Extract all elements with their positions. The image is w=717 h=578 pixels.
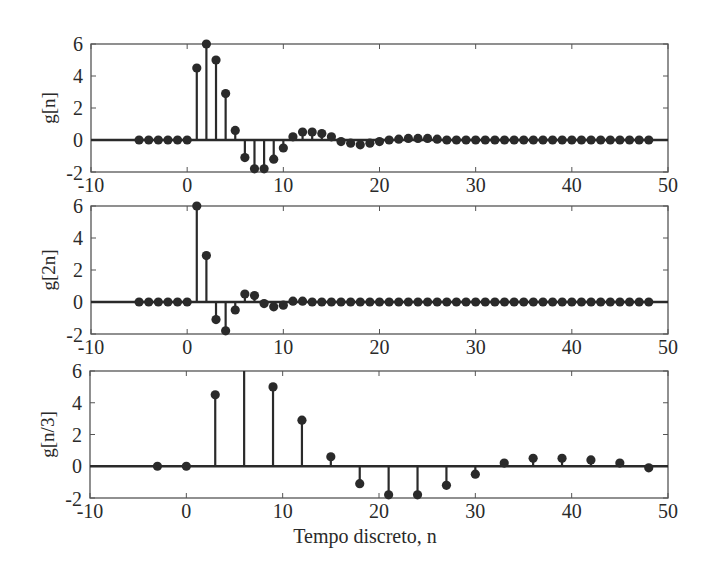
stem-marker bbox=[558, 135, 567, 144]
stem-marker bbox=[538, 297, 547, 306]
stem-marker bbox=[548, 297, 557, 306]
stem-marker bbox=[615, 297, 624, 306]
stem-marker bbox=[500, 297, 509, 306]
stem-marker bbox=[442, 481, 451, 490]
y-tick-label: 0 bbox=[73, 291, 83, 313]
stem-marker bbox=[635, 135, 644, 144]
stem-marker bbox=[394, 297, 403, 306]
stem-marker bbox=[221, 89, 230, 98]
stem-marker bbox=[385, 135, 394, 144]
x-tick-label: 20 bbox=[370, 336, 390, 358]
stem-marker bbox=[615, 458, 624, 467]
stem-marker bbox=[529, 454, 538, 463]
stem-marker bbox=[635, 297, 644, 306]
y-axis-label: g[2n] bbox=[38, 249, 59, 290]
stem-marker bbox=[548, 135, 557, 144]
x-tick-label: 10 bbox=[273, 174, 293, 196]
stem-marker bbox=[423, 134, 432, 143]
x-tick-label: 30 bbox=[466, 336, 486, 358]
stem-marker bbox=[192, 63, 201, 72]
stem-marker bbox=[529, 297, 538, 306]
stem-marker bbox=[297, 416, 306, 425]
axes-frame bbox=[91, 44, 668, 172]
stem-marker bbox=[144, 297, 153, 306]
x-tick-label: 20 bbox=[370, 174, 390, 196]
stem-marker bbox=[461, 135, 470, 144]
stem-marker bbox=[211, 390, 220, 399]
y-tick-label: 6 bbox=[73, 33, 83, 55]
y-tick-label: 0 bbox=[72, 455, 82, 477]
stem-marker bbox=[288, 297, 297, 306]
stem-marker bbox=[558, 297, 567, 306]
y-tick-label: -2 bbox=[66, 162, 83, 184]
x-tick-label: 40 bbox=[562, 336, 582, 358]
x-tick-label: 0 bbox=[182, 336, 192, 358]
stem-marker bbox=[240, 289, 249, 298]
stem-marker bbox=[182, 462, 191, 471]
stem-marker bbox=[471, 297, 480, 306]
x-tick-label: 0 bbox=[182, 174, 192, 196]
x-tick-label: 0 bbox=[181, 500, 191, 522]
stem-marker bbox=[153, 462, 162, 471]
stem-marker bbox=[644, 463, 653, 472]
stem-marker bbox=[557, 454, 566, 463]
stem-marker bbox=[308, 127, 317, 136]
x-tick-label: 40 bbox=[562, 174, 582, 196]
stem-marker bbox=[221, 326, 230, 335]
stem-marker bbox=[404, 134, 413, 143]
stem-marker bbox=[326, 452, 335, 461]
y-tick-label: -2 bbox=[66, 324, 83, 346]
stem-marker bbox=[327, 132, 336, 141]
stem-marker bbox=[413, 490, 422, 499]
stem-marker bbox=[163, 297, 172, 306]
x-tick-label: 20 bbox=[369, 500, 389, 522]
stem-marker bbox=[211, 55, 220, 64]
stem-marker bbox=[433, 297, 442, 306]
stem-marker bbox=[452, 135, 461, 144]
stem-marker bbox=[356, 297, 365, 306]
stem-marker bbox=[586, 455, 595, 464]
panel-g-n-over-3: -1001020304050-20246g[n/3] bbox=[37, 360, 678, 522]
stem-marker bbox=[269, 155, 278, 164]
stem-marker bbox=[490, 135, 499, 144]
stem-marker bbox=[202, 251, 211, 260]
y-tick-label: 4 bbox=[73, 65, 83, 87]
stem-marker bbox=[279, 301, 288, 310]
stem-marker bbox=[442, 297, 451, 306]
stem-marker bbox=[375, 297, 384, 306]
stem-marker bbox=[413, 134, 422, 143]
y-tick-label: -2 bbox=[65, 488, 82, 510]
x-tick-label: 30 bbox=[466, 174, 486, 196]
stem-marker bbox=[625, 297, 634, 306]
stem-marker bbox=[423, 297, 432, 306]
stem-marker bbox=[134, 297, 143, 306]
stem-marker bbox=[596, 135, 605, 144]
axes-frame bbox=[91, 206, 668, 334]
x-tick-label: 30 bbox=[465, 500, 485, 522]
x-tick-label: 40 bbox=[562, 500, 582, 522]
x-tick-label: 10 bbox=[273, 500, 293, 522]
x-tick-label: 50 bbox=[658, 336, 678, 358]
stem-marker bbox=[500, 458, 509, 467]
y-tick-label: 6 bbox=[72, 360, 82, 382]
stem-marker bbox=[202, 39, 211, 48]
stem-marker bbox=[336, 297, 345, 306]
stem-marker bbox=[577, 297, 586, 306]
y-tick-label: 6 bbox=[73, 195, 83, 217]
y-axis-label: g[n] bbox=[38, 92, 59, 124]
stem-marker bbox=[183, 297, 192, 306]
stem-marker bbox=[144, 135, 153, 144]
stem-marker bbox=[461, 297, 470, 306]
stem-marker bbox=[173, 135, 182, 144]
stem-marker bbox=[298, 127, 307, 136]
stem-marker bbox=[356, 140, 365, 149]
stem-marker bbox=[606, 135, 615, 144]
stem-marker bbox=[644, 297, 653, 306]
stem-marker bbox=[250, 291, 259, 300]
stem-marker bbox=[481, 297, 490, 306]
stem-marker bbox=[365, 139, 374, 148]
stem-marker bbox=[538, 135, 547, 144]
stem-marker bbox=[250, 164, 259, 173]
stem-marker bbox=[288, 132, 297, 141]
y-tick-label: 2 bbox=[72, 424, 82, 446]
